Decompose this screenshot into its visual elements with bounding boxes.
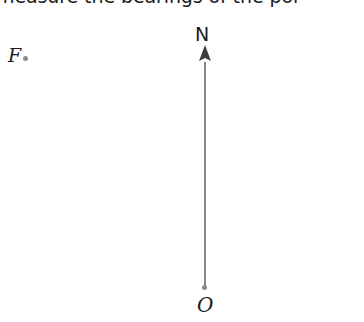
point-label-o: O — [197, 295, 213, 315]
north-arrow-head — [199, 45, 211, 61]
north-arrow-icon — [186, 40, 226, 296]
north-label: N — [195, 25, 209, 44]
diagram-canvas: measure the bearings of the poi F N O — [0, 0, 364, 322]
point-label-f: F — [8, 46, 21, 65]
question-text: measure the bearings of the poi — [0, 0, 298, 7]
point-marker-f — [23, 56, 28, 61]
question-text-clip: measure the bearings of the poi — [0, 0, 364, 15]
point-marker-o — [202, 285, 207, 290]
